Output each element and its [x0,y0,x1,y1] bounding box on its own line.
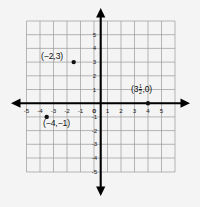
x-tick-label--3: -3 [51,107,57,113]
point-label-3half-0-prefix: (3 [131,85,138,94]
point-label-3half-0: (312,0) [131,84,152,95]
y-tick-label--3: -3 [92,141,98,147]
x-tick-label--2: -2 [64,107,70,113]
y-tick-label-2: 2 [93,73,96,79]
x-tick-label--5: -5 [24,107,30,113]
x-axis-right-arrow-icon [181,99,191,108]
x-tick-label-4: 4 [146,107,149,113]
y-tick-label--4: -4 [92,155,98,161]
x-axis-left-arrow-icon [11,99,21,108]
y-tick-label--2: -2 [92,127,98,133]
coordinate-plane-graph [0,0,200,207]
fraction-one-half: 12 [139,84,143,95]
y-tick-label-3: 3 [93,59,96,65]
y-axis-bottom-arrow-icon [96,187,105,197]
x-tick-label-1: 1 [106,107,109,113]
y-tick-label-4: 4 [93,45,96,51]
point-marker-neg2-3 [72,60,76,64]
x-tick-label--1: -1 [78,107,84,113]
y-tick-label--5: -5 [92,169,98,175]
x-tick-label-5: 5 [160,107,163,113]
x-tick-label-3: 3 [133,107,136,113]
y-tick-label-1: 1 [93,86,96,92]
point-marker-3half-0 [146,101,150,105]
y-axis-top-arrow-icon [96,8,105,18]
point-label-neg2-3: (−2,3) [41,52,63,61]
coordinate-plane-screenshot: -5 -4 -3 -2 -1 0 1 2 3 4 5 5 4 3 2 1 0 -… [0,0,200,207]
y-tick-label--1: -1 [92,114,98,120]
x-tick-label--4: -4 [37,107,43,113]
x-tick-label-2: 2 [119,107,122,113]
point-label-neg4-neg1: (−4,−1) [43,119,70,128]
y-tick-label-5: 5 [93,32,96,38]
point-label-3half-0-suffix: ,0) [142,85,152,94]
fraction-denominator: 2 [139,89,143,95]
